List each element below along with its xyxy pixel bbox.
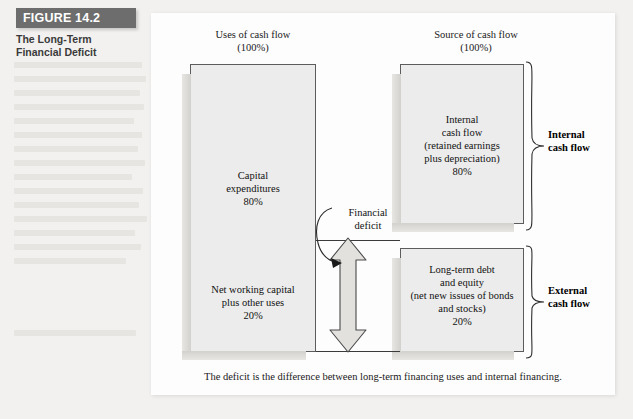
- long-term-debt-and-equity-label: Long-term debt and equity (net new issue…: [401, 263, 523, 328]
- internal-cash-flow-box: Internal cash flow (retained earnings pl…: [400, 64, 524, 224]
- uses-of-cash-flow-box: Capital expenditures 80% Net working cap…: [190, 64, 316, 352]
- internal-cash-flow-bracket-label: Internal cash flow: [548, 128, 590, 154]
- capital-expenditures-label: Capital expenditures 80%: [191, 169, 315, 208]
- scanned-page-background: FIGURE 14.2 The Long-Term Financial Defi…: [0, 0, 633, 419]
- long-term-debt-line-2: and equity: [401, 276, 523, 289]
- bracket-external-line-2: cash flow: [548, 297, 590, 310]
- external-cash-flow-brace-icon: [524, 244, 546, 360]
- net-working-capital-line-2: plus other uses: [191, 296, 315, 309]
- internal-cash-flow-line-4: plus depreciation): [401, 152, 523, 165]
- source-heading-line-2: (100%): [396, 41, 556, 54]
- figure-title-line-2: Financial Deficit: [16, 46, 146, 59]
- figure-number-banner: FIGURE 14.2: [16, 8, 136, 28]
- figure-title: The Long-Term Financial Deficit: [16, 33, 146, 59]
- internal-cash-flow-brace-icon: [524, 60, 546, 232]
- long-term-debt-value: 20%: [401, 315, 523, 328]
- financial-deficit-line-1: Financial: [330, 206, 406, 219]
- internal-cash-flow-line-3: (retained earnings: [401, 139, 523, 152]
- long-term-debt-line-3: (net new issues of bonds: [401, 289, 523, 302]
- net-working-capital-value: 20%: [191, 309, 315, 322]
- capital-expenditures-value: 80%: [191, 195, 315, 208]
- figure-title-line-1: The Long-Term: [16, 33, 146, 46]
- financial-deficit-line-2: deficit: [330, 219, 406, 232]
- net-working-capital-line-1: Net working capital: [191, 283, 315, 296]
- long-term-debt-and-equity-box: Long-term debt and equity (net new issue…: [400, 248, 524, 352]
- external-cash-flow-bracket-label: External cash flow: [548, 284, 590, 310]
- long-term-debt-line-4: and stocks): [401, 302, 523, 315]
- capital-expenditures-line-1: Capital: [191, 169, 315, 182]
- uses-column-heading: Uses of cash flow (100%): [178, 28, 328, 54]
- uses-heading-line-1: Uses of cash flow: [178, 28, 328, 41]
- internal-cash-flow-line-2: cash flow: [401, 126, 523, 139]
- bracket-internal-line-1: Internal: [548, 128, 590, 141]
- long-term-debt-line-1: Long-term debt: [401, 263, 523, 276]
- figure-number-label: FIGURE 14.2: [16, 8, 136, 28]
- financial-deficit-annotation: Financial deficit: [330, 206, 406, 232]
- figure-footnote: The deficit is the difference between lo…: [204, 370, 562, 383]
- internal-cash-flow-label: Internal cash flow (retained earnings pl…: [401, 113, 523, 178]
- capital-expenditures-line-2: expenditures: [191, 182, 315, 195]
- source-column-heading: Source of cash flow (100%): [396, 28, 556, 54]
- source-heading-line-1: Source of cash flow: [396, 28, 556, 41]
- bracket-internal-line-2: cash flow: [548, 141, 590, 154]
- internal-cash-flow-line-1: Internal: [401, 113, 523, 126]
- internal-cash-flow-value: 80%: [401, 165, 523, 178]
- bracket-external-line-1: External: [548, 284, 590, 297]
- net-working-capital-label: Net working capital plus other uses 20%: [191, 283, 315, 322]
- uses-heading-line-2: (100%): [178, 41, 328, 54]
